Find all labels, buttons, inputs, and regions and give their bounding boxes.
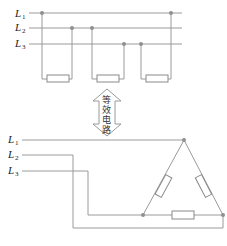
node-bottom-left: [141, 213, 145, 217]
label-L1-bottom: L: [7, 133, 14, 145]
top-circuit: L 1 L 2 L 3: [14, 7, 182, 82]
load2-wire: [92, 28, 124, 79]
sub-L3-bottom: 3: [15, 170, 19, 178]
node: [70, 26, 74, 30]
label-L3-bottom: L: [7, 164, 14, 176]
equivalence-arrow-icon: 等 效 电 路: [93, 89, 121, 136]
load1-wire: [42, 13, 72, 79]
node: [122, 42, 126, 46]
resistor-bottom-delta: [172, 211, 194, 219]
circuit-diagram: L 1 L 2 L 3 等 效 电 路 L 1 L 2: [0, 0, 227, 246]
resistor-3-top: [146, 75, 168, 82]
node-bottom-right: [221, 213, 225, 217]
node: [40, 11, 44, 15]
bottom-circuit: L 1 L 2 L 3: [7, 133, 225, 228]
arrow-text-3: 电: [102, 114, 111, 125]
sub-L1-top: 1: [22, 13, 26, 21]
arrow-text-4: 路: [102, 124, 111, 135]
resistor-right-delta: [195, 175, 211, 198]
arrow-text-2: 效: [102, 104, 111, 115]
node: [169, 11, 173, 15]
sub-L2-top: 2: [22, 27, 26, 35]
node: [90, 26, 94, 30]
node: [139, 42, 143, 46]
load3-wire: [141, 13, 171, 79]
sub-L1-bottom: 1: [15, 139, 19, 147]
label-L1-top: L: [14, 7, 21, 19]
resistor-1-top: [47, 75, 69, 82]
resistor-2-top: [97, 75, 119, 82]
delta-left-edge: [143, 140, 184, 215]
label-L2-bottom: L: [7, 148, 14, 160]
sub-L2-bottom: 2: [15, 154, 19, 162]
line-L3-bottom: [22, 171, 143, 215]
label-L3-top: L: [14, 37, 21, 49]
resistor-left-delta: [155, 175, 172, 198]
node-top: [182, 138, 186, 142]
sub-L3-top: 3: [22, 43, 26, 51]
label-L2-top: L: [14, 21, 21, 33]
arrow-text-1: 等: [102, 94, 111, 105]
